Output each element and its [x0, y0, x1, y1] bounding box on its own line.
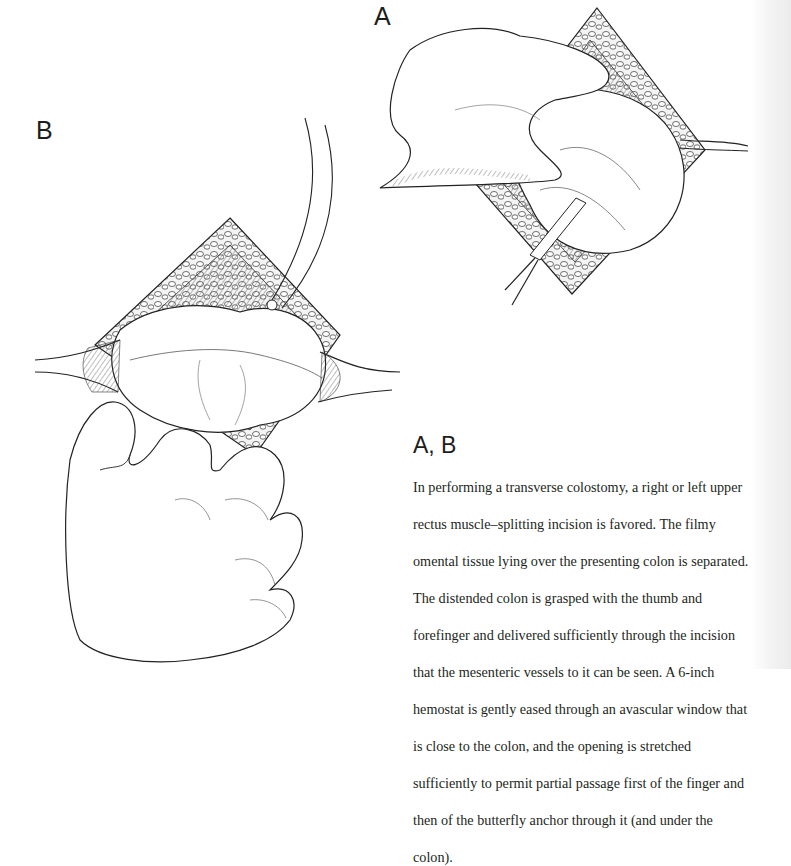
caption-line: rectus muscle–splitting incision is favo… — [413, 516, 716, 532]
figure-a-illustration — [380, 8, 748, 305]
caption-line: In performing a transverse colostomy, a … — [413, 479, 742, 495]
caption-line: is close to the colon, and the opening i… — [413, 738, 691, 754]
figure-caption: A, B In performing a transverse colostom… — [413, 432, 785, 866]
caption-line: The distended colon is grasped with the … — [413, 590, 702, 606]
caption-line: hemostat is gently eased through an avas… — [413, 701, 747, 717]
caption-line: that the mesenteric vessels to it can be… — [413, 664, 714, 680]
caption-title: A, B — [413, 432, 785, 458]
caption-line: omental tissue lying over the presenting… — [413, 553, 748, 569]
figure-b-illustration — [35, 118, 400, 662]
caption-line: then of the butterfly anchor through it … — [413, 812, 713, 828]
caption-line: colon). — [413, 849, 453, 865]
figure-a-label: A — [374, 4, 391, 29]
caption-line: forefinger and delivered sufficiently th… — [413, 627, 735, 643]
caption-body: In performing a transverse colostomy, a … — [413, 459, 785, 866]
caption-line: sufficiently to permit partial passage f… — [413, 775, 744, 791]
figure-b-label: B — [36, 118, 53, 143]
